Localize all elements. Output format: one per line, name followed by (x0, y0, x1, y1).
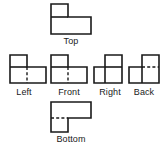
left-outline (10, 55, 46, 83)
orthographic-projection-figure: Top Left Front Right Back Bottom (0, 0, 163, 147)
view-top-drawing (50, 3, 92, 35)
view-front-drawing (50, 54, 88, 84)
bottom-outline (51, 102, 91, 132)
view-label-bottom: Bottom (36, 134, 106, 145)
view-back-drawing (128, 54, 160, 84)
top-outline (51, 4, 91, 34)
back-outline (129, 55, 159, 83)
right-outline (94, 55, 122, 83)
view-right-drawing (93, 54, 123, 84)
view-label-top: Top (41, 36, 101, 47)
view-left-drawing (9, 54, 47, 84)
view-label-back: Back (124, 87, 163, 98)
view-bottom-drawing (50, 101, 92, 133)
front-outline (51, 55, 87, 83)
